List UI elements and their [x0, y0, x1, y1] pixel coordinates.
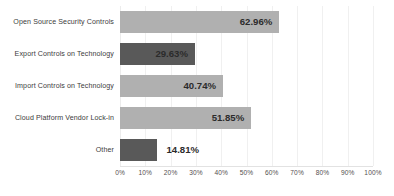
bar[interactable]: 14.81%	[120, 139, 157, 161]
x-tick-label: 20%	[164, 169, 178, 176]
bar-value-label: 40.74%	[184, 75, 217, 97]
bar-row: Cloud Platform Vendor Lock-in51.85%	[120, 102, 373, 134]
x-tick-label: 70%	[290, 169, 304, 176]
bar-row: Import Controls on Technology40.74%	[120, 70, 373, 102]
category-label: Open Source Security Controls	[0, 6, 114, 38]
category-label: Cloud Platform Vendor Lock-in	[0, 102, 114, 134]
bar[interactable]: 29.63%	[120, 43, 195, 65]
bar[interactable]: 40.74%	[120, 75, 223, 97]
x-tick-label: 60%	[265, 169, 279, 176]
x-tick-label: 0%	[115, 169, 125, 176]
x-axis-tick-labels: 0%10%20%30%40%50%60%70%80%90%100%	[120, 169, 373, 183]
bar-value-label: 29.63%	[155, 43, 188, 65]
bar-row: Other14.81%	[120, 134, 373, 166]
bar-row: Export Controls on Technology29.63%	[120, 38, 373, 70]
bar[interactable]: 51.85%	[120, 107, 251, 129]
bar-chart: Open Source Security Controls62.96%Expor…	[0, 0, 394, 196]
x-tick-label: 100%	[364, 169, 381, 176]
x-tick-label: 10%	[139, 169, 153, 176]
bar-value-label: 51.85%	[212, 107, 245, 129]
bar-row: Open Source Security Controls62.96%	[120, 6, 373, 38]
x-tick-label: 30%	[189, 169, 203, 176]
x-axis-line	[120, 166, 373, 167]
category-label: Import Controls on Technology	[0, 70, 114, 102]
x-tick-label: 80%	[316, 169, 330, 176]
bar-value-label: 62.96%	[240, 11, 273, 33]
bar-value-label: 14.81%	[166, 139, 199, 161]
x-tick-label: 40%	[214, 169, 228, 176]
bar[interactable]: 62.96%	[120, 11, 279, 33]
x-tick-label: 90%	[341, 169, 355, 176]
category-label: Other	[0, 134, 114, 166]
plot-area: Open Source Security Controls62.96%Expor…	[120, 6, 373, 166]
category-label: Export Controls on Technology	[0, 38, 114, 70]
x-tick-label: 50%	[240, 169, 254, 176]
gridline	[373, 6, 374, 166]
